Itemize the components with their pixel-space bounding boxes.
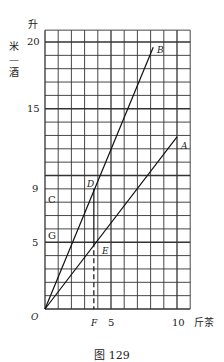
x-tick-10: 10 (172, 318, 185, 328)
y-unit-label: 升 (28, 20, 38, 30)
point-label-b: B (157, 45, 164, 55)
y-axis-label: 米 — 酒 (8, 40, 20, 79)
x-axis-label: 斤茶 (194, 318, 214, 328)
figure-129: 升 米 — 酒 20 15 9 5 C G D E B A O F 5 10 斤… (0, 0, 224, 362)
y-tick-15: 15 (27, 104, 40, 114)
grid-plot (0, 0, 224, 362)
point-label-d: D (87, 179, 94, 189)
figure-caption: 图 129 (0, 346, 224, 362)
x-tick-5: 5 (108, 318, 114, 328)
point-label-e: E (102, 246, 109, 256)
y-tick-5: 5 (32, 238, 38, 248)
y-tick-9: 9 (32, 184, 38, 194)
origin-label: O (31, 312, 38, 322)
y-tick-20: 20 (27, 37, 40, 47)
point-label-c: C (48, 195, 56, 205)
point-label-a: A (181, 141, 188, 151)
point-label-f: F (91, 318, 97, 328)
point-label-g: G (48, 231, 56, 241)
